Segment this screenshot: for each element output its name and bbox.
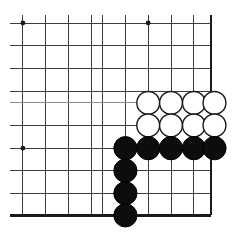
star-point-left (21, 146, 26, 151)
white-stone-6[interactable] (160, 114, 183, 137)
stones-group (114, 92, 226, 227)
white-stone-8[interactable] (203, 114, 226, 137)
goban-canvas (0, 0, 233, 238)
black-stone-8[interactable] (114, 204, 137, 227)
star-point-top-left (21, 21, 26, 26)
edge-lines-group (10, 15, 211, 215)
star-points-group (21, 21, 151, 151)
white-stone-4[interactable] (203, 92, 226, 115)
black-stone-7[interactable] (114, 182, 137, 205)
black-stone-1[interactable] (114, 137, 137, 160)
black-stone-4[interactable] (182, 137, 205, 160)
star-point-top-right (146, 21, 151, 26)
white-stone-3[interactable] (183, 92, 206, 115)
black-stone-2[interactable] (137, 137, 160, 160)
go-board-diagram (0, 0, 233, 238)
white-stone-1[interactable] (137, 92, 160, 115)
black-stone-3[interactable] (159, 137, 182, 160)
white-stone-5[interactable] (137, 114, 160, 137)
black-stone-5[interactable] (203, 137, 226, 160)
white-stone-2[interactable] (160, 92, 183, 115)
grid-lines-group (10, 15, 211, 215)
white-stone-7[interactable] (183, 114, 206, 137)
black-stone-6[interactable] (114, 159, 137, 182)
